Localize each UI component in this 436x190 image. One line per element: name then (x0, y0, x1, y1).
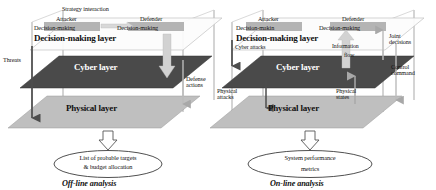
offline-physical-layer-label: Physical layer (66, 104, 117, 113)
online-physical-attacks-label: Physicalattacks (217, 88, 237, 101)
online-control-command-label: Controlcommand (391, 64, 415, 77)
online-defender-subtitle: Decision-making (319, 25, 360, 31)
offline-outcome-line1: List of probable targets (54, 155, 162, 162)
online-attacker-title: Attacker (258, 16, 279, 22)
online-outcome-line2: metrics (250, 166, 370, 173)
online-joint-decisions-label: Jointdecisions (389, 33, 411, 46)
panel-offline-analysis: Strategy interaction Attacker Decision-m… (0, 0, 218, 190)
offline-attacker-title: Attacker (56, 16, 77, 22)
panel-online-analysis: Attacker Decision-makin Defender Decisio… (218, 0, 436, 190)
online-physical-layer-label: Physical layer (268, 104, 319, 113)
layered-architecture-figure: Strategy interaction Attacker Decision-m… (0, 0, 436, 190)
online-physical-states-label: Physicalstates (336, 88, 356, 101)
offline-cyber-layer-label: Cyber layer (74, 63, 117, 72)
offline-attacker-subtitle: Decision-making (34, 25, 75, 31)
online-outcome-line1: System performance (250, 155, 370, 162)
online-outcome-block-arrow (301, 131, 319, 150)
offline-threats-label: Threats (3, 57, 21, 63)
online-caption: On-line analysis (270, 180, 324, 188)
offline-outcome-block-arrow (99, 131, 117, 150)
offline-outcome-line2: & budget allocation (54, 164, 162, 171)
online-attacker-subtitle: Decision-makin (236, 25, 274, 31)
offline-defense-actions-label: Defenseactions (186, 76, 206, 89)
offline-strategy-interaction-label: Strategy interaction (62, 6, 109, 12)
online-cyber-attacks-label: Cyber attacks (235, 45, 265, 51)
offline-defender-subtitle: Decision-making (117, 25, 158, 31)
offline-decision-layer-label: Decision-making layer (34, 34, 116, 43)
online-information-flow-label: Information (332, 44, 359, 50)
online-information-flow-label2: flow (344, 53, 354, 59)
offline-defender-title: Defender (140, 16, 162, 22)
online-defender-title: Defender (342, 16, 364, 22)
offline-caption: Off-line analysis (62, 180, 116, 188)
online-cyber-layer-label: Cyber layer (276, 63, 319, 72)
online-decision-layer-label: Decision-making layer (236, 34, 318, 43)
